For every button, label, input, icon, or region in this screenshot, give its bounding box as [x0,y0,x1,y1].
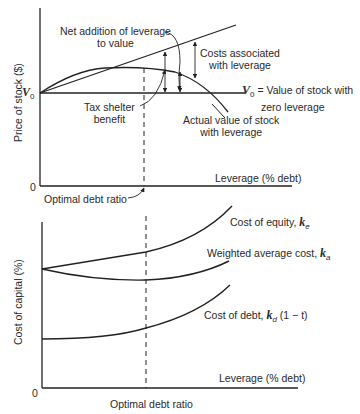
cost-of-debt-label: Cost of debt, kd (1 − t) [204,309,308,326]
top-origin-label: 0 [30,181,36,193]
diagram-canvas [0,0,360,414]
v0-definition-label: V0 = Value of stock with zero leverage [242,84,353,113]
cost-of-equity-curve [42,206,232,269]
bottom-origin-label: 0 [32,387,38,399]
bottom-optimal-label: Optimal debt ratio [110,398,193,410]
top-optimal-label: Optimal debt ratio [44,193,127,205]
top-x-axis-label: Leverage (% debt) [215,172,301,184]
bottom-y-axis-label: Cost of capital (%) [12,259,24,345]
net-addition-label: Net addition of leverage to value [60,25,171,49]
bottom-chart [42,206,298,388]
bottom-x-axis-label: Leverage (% debt) [219,372,305,384]
tax-shelter-label: Tax shelter benefit [84,101,135,125]
cost-of-equity-label: Cost of equity, ke [230,216,310,233]
cost-of-debt-curve [42,285,230,339]
optimal-leader [128,188,144,198]
weighted-average-cost-label: Weighted average cost, ka [207,247,331,264]
costs-label: Costs associated with leverage [200,47,280,71]
actual-value-label: Actual value of stock with leverage [183,114,279,138]
v0-tick-label: V0 [22,86,34,103]
